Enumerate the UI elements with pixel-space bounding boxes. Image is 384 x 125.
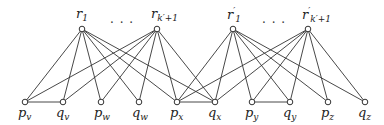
node-pw xyxy=(98,99,104,105)
label-pv: pv xyxy=(18,106,31,122)
label-qz: qz xyxy=(358,106,371,122)
node-qz xyxy=(362,99,368,105)
label-rp1: r′1 xyxy=(227,7,241,24)
edge-rpk1-px xyxy=(177,29,308,102)
node-qy xyxy=(287,99,293,105)
node-qw xyxy=(136,99,142,105)
label-rk1: rk′+1 xyxy=(151,7,178,23)
node-rk1 xyxy=(154,26,160,32)
edge-rp1-qx xyxy=(215,29,233,102)
label-px: px xyxy=(170,106,183,122)
label-r1: r1 xyxy=(76,7,88,23)
edge-rpk1-qz xyxy=(308,29,365,102)
edge-r1-qv xyxy=(63,29,82,102)
label-qy: qy xyxy=(283,106,296,122)
label-qv: qv xyxy=(56,106,69,122)
label-qw: qw xyxy=(132,106,148,122)
graph-diagram: r1rk′+1r′1r′k′+1pvqvpwqwpxqxpyqypzqz· · … xyxy=(0,0,384,125)
edge-rk1-qv xyxy=(63,29,157,102)
ellipsis-0: · · · xyxy=(110,16,134,30)
node-pz xyxy=(325,99,331,105)
label-qx: qx xyxy=(208,106,221,122)
node-qv xyxy=(60,99,66,105)
label-rpk1: r′k′+1 xyxy=(302,7,331,24)
node-pv xyxy=(22,99,28,105)
edge-rk1-px xyxy=(157,29,177,102)
edge-rpk1-pz xyxy=(308,29,328,102)
node-qx xyxy=(212,99,218,105)
edge-rp1-px xyxy=(177,29,233,102)
edge-rk1-qw xyxy=(139,29,157,102)
label-py: py xyxy=(245,106,258,122)
edge-r1-pv xyxy=(25,29,82,102)
edge-rk1-qx xyxy=(157,29,215,102)
ellipsis-1: · · · xyxy=(262,16,286,30)
node-r1 xyxy=(79,26,85,32)
node-py xyxy=(249,99,255,105)
label-pw: pw xyxy=(94,106,110,122)
edge-rpk1-qx xyxy=(215,29,308,102)
edge-rpk1-qy xyxy=(290,29,308,102)
label-pz: pz xyxy=(321,106,334,122)
node-rp1 xyxy=(230,26,236,32)
node-rpk1 xyxy=(305,26,311,32)
node-px xyxy=(174,99,180,105)
